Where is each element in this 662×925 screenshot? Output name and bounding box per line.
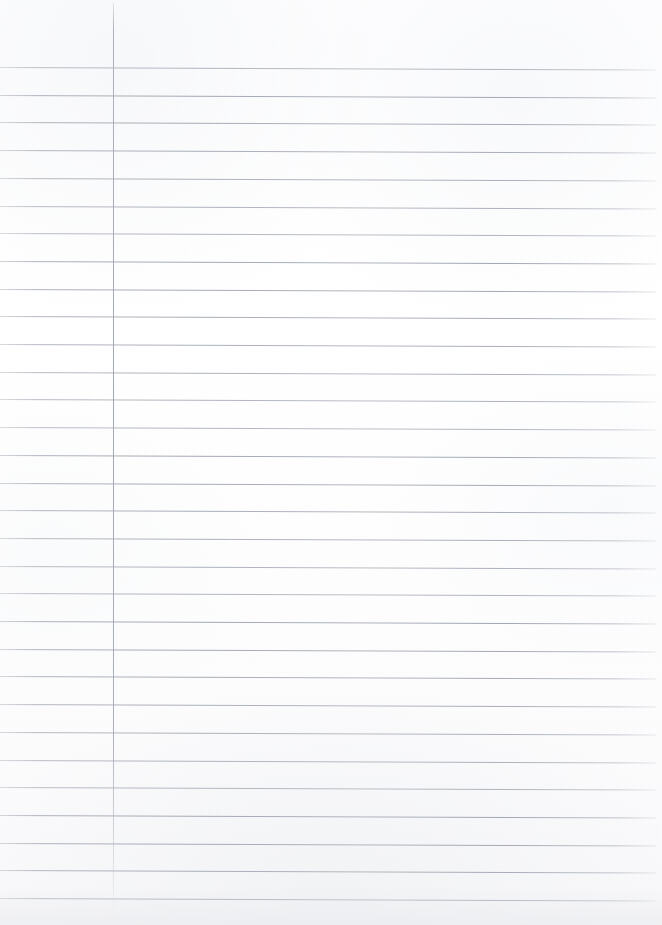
writing-area	[114, 0, 662, 925]
scanned-notebook-page	[0, 0, 662, 925]
